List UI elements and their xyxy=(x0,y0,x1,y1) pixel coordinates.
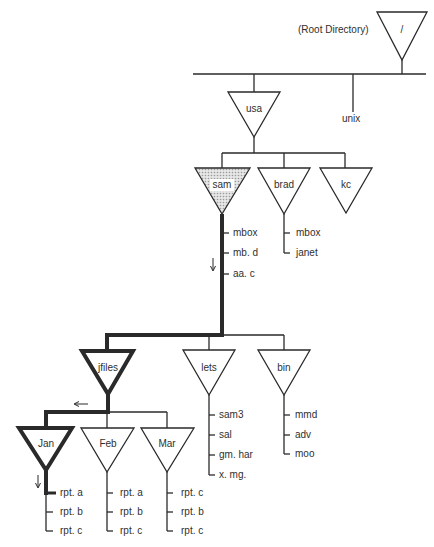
lets-file-sal[interactable]: sal xyxy=(219,429,232,441)
mar-dir-icon xyxy=(141,428,194,472)
jan-file-rptb[interactable]: rpt. b xyxy=(60,506,83,518)
bin-file-adv[interactable]: adv xyxy=(295,429,311,441)
sam-dir-name[interactable]: sam xyxy=(210,179,234,191)
brad-dir-name[interactable]: brad xyxy=(268,179,300,191)
feb-file-rpta[interactable]: rpt. a xyxy=(120,487,143,499)
lets-file-sam3[interactable]: sam3 xyxy=(219,409,243,421)
jan-file-rpta[interactable]: rpt. a xyxy=(60,487,83,499)
brad-file-mbox[interactable]: mbox xyxy=(296,227,320,239)
jan-dir-name[interactable]: Jan xyxy=(32,438,60,450)
usa-dir-name[interactable]: usa xyxy=(239,103,269,115)
bin-file-mmd[interactable]: mmd xyxy=(295,409,317,421)
mar-dir-name[interactable]: Mar xyxy=(153,438,181,450)
lets-dir-name[interactable]: lets xyxy=(194,362,224,374)
sam-dir-icon xyxy=(195,168,250,214)
feb-dir-name[interactable]: Feb xyxy=(94,438,122,450)
feb-file-rptb[interactable]: rpt. b xyxy=(120,506,143,518)
mar-file-rptc[interactable]: rpt. c xyxy=(181,487,203,499)
root-caption: (Root Directory) xyxy=(298,24,369,36)
bin-dir-name[interactable]: bin xyxy=(270,362,298,374)
mar-file-rptb[interactable]: rpt. b xyxy=(181,506,204,518)
jan-file-rptc[interactable]: rpt. c xyxy=(60,525,82,537)
mar-file-rptc-2[interactable]: rpt. c xyxy=(181,525,203,537)
brad-dir-icon xyxy=(258,168,310,214)
root-dir-name[interactable]: / xyxy=(392,24,412,36)
brad-file-janet[interactable]: janet xyxy=(296,247,318,259)
feb-dir-icon xyxy=(81,428,134,472)
bin-file-moo[interactable]: moo xyxy=(295,448,314,460)
jfiles-dir-name[interactable]: jfiles xyxy=(90,362,126,374)
sam-file-aac[interactable]: aa. c xyxy=(233,268,255,280)
sam-file-mbd[interactable]: mb. d xyxy=(233,247,258,259)
file-unix[interactable]: unix xyxy=(342,113,360,125)
kc-dir-name[interactable]: kc xyxy=(334,179,358,191)
sam-file-mbox[interactable]: mbox xyxy=(233,227,257,239)
feb-file-rptc[interactable]: rpt. c xyxy=(120,525,142,537)
lets-file-gmhar[interactable]: gm. har xyxy=(219,449,253,461)
lets-file-xmg[interactable]: x. mg. xyxy=(219,469,246,481)
tree-lines xyxy=(0,0,434,547)
root-dir-icon xyxy=(377,12,427,60)
